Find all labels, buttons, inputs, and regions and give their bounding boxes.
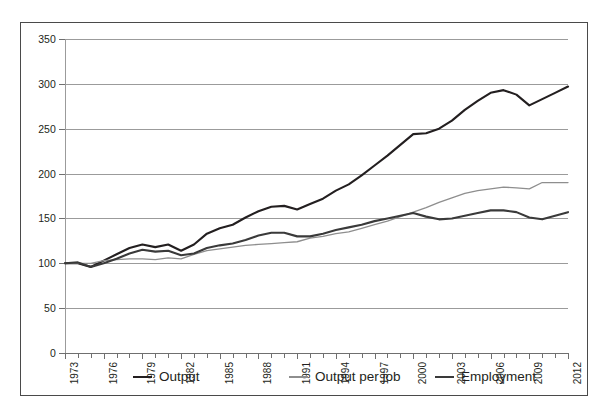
x-tick-2006 <box>491 353 492 359</box>
x-tick-1978 <box>129 353 130 358</box>
x-tick-1980 <box>155 353 156 358</box>
x-tick-2004 <box>465 353 466 358</box>
legend-item-output-per-job[interactable]: Output per job <box>289 370 401 384</box>
x-tick-1982 <box>181 353 182 359</box>
x-tick-1973 <box>65 353 66 359</box>
x-tick-1987 <box>246 353 247 358</box>
y-axis-label-300: 300 <box>38 78 56 90</box>
legend-item-employment[interactable]: Employment <box>435 370 536 384</box>
chart-figure: 050100150200250300350 197319761979198219… <box>20 22 588 396</box>
legend-swatch-icon <box>289 376 308 377</box>
x-tick-2009 <box>529 353 530 359</box>
legend-swatch-icon <box>133 376 152 378</box>
y-axis-label-200: 200 <box>38 168 56 180</box>
x-tick-1981 <box>168 353 169 358</box>
x-tick-1989 <box>271 353 272 358</box>
x-tick-1988 <box>258 353 259 359</box>
x-tick-2000 <box>413 353 414 359</box>
x-tick-1985 <box>220 353 221 359</box>
legend-label: Output per job <box>315 370 401 384</box>
x-tick-1986 <box>233 353 234 358</box>
y-axis-label-250: 250 <box>38 123 56 135</box>
x-tick-1974 <box>78 353 79 358</box>
legend-swatch-icon <box>435 376 454 379</box>
x-tick-2008 <box>516 353 517 358</box>
x-tick-1983 <box>194 353 195 358</box>
y-axis-label-150: 150 <box>38 212 56 224</box>
line-series-svg <box>65 39 568 353</box>
x-tick-2005 <box>478 353 479 358</box>
plot-area: 050100150200250300350 197319761979198219… <box>65 39 568 353</box>
chart-legend: OutputOutput per jobEmployment <box>21 367 587 387</box>
x-tick-2001 <box>426 353 427 358</box>
x-tick-2012 <box>568 353 569 359</box>
x-tick-2007 <box>504 353 505 358</box>
y-axis-label-100: 100 <box>38 257 56 269</box>
y-axis-label-50: 50 <box>44 302 56 314</box>
legend-item-output[interactable]: Output <box>133 370 200 384</box>
x-tick-1991 <box>297 353 298 359</box>
x-tick-1977 <box>117 353 118 358</box>
series-lines <box>65 39 568 353</box>
x-tick-1996 <box>362 353 363 358</box>
x-tick-2002 <box>439 353 440 358</box>
series-line-output <box>65 87 568 267</box>
x-tick-1990 <box>284 353 285 358</box>
x-tick-2003 <box>452 353 453 359</box>
legend-label: Output <box>159 370 200 384</box>
x-axis-ticks <box>65 353 568 359</box>
x-tick-1997 <box>375 353 376 359</box>
x-tick-1976 <box>104 353 105 359</box>
x-tick-1975 <box>91 353 92 358</box>
x-tick-1994 <box>336 353 337 359</box>
x-tick-1999 <box>400 353 401 358</box>
x-tick-2011 <box>555 353 556 358</box>
x-tick-1993 <box>323 353 324 358</box>
y-axis-label-0: 0 <box>50 347 56 359</box>
legend-label: Employment <box>461 370 536 384</box>
x-tick-2010 <box>542 353 543 358</box>
x-tick-1995 <box>349 353 350 358</box>
x-tick-1998 <box>387 353 388 358</box>
x-tick-1992 <box>310 353 311 358</box>
x-tick-1984 <box>207 353 208 358</box>
y-axis-label-350: 350 <box>38 33 56 45</box>
x-tick-1979 <box>142 353 143 359</box>
